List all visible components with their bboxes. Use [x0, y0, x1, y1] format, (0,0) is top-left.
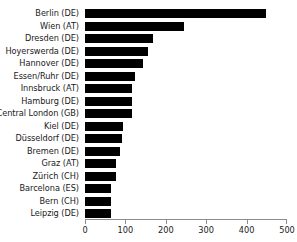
category-label: Berlin (DE) [35, 9, 82, 18]
x-tick-label: 200 [158, 225, 174, 236]
category-axis: Berlin (DE)Wien (AT)Dresden (DE)Hoyerswe… [0, 9, 82, 218]
category-label: Graz (AT) [41, 159, 82, 168]
x-tick-mark [206, 220, 207, 224]
bar-chart: Berlin (DE)Wien (AT)Dresden (DE)Hoyerswe… [0, 0, 297, 242]
category-label: Innsbruck (AT) [21, 84, 82, 93]
bar-row [85, 159, 287, 168]
category-label: Central London (GB) [0, 109, 82, 118]
bar-row [85, 209, 287, 218]
bar-row [85, 59, 287, 68]
x-tick-mark [247, 220, 248, 224]
bar-row [85, 109, 287, 118]
bar-row [85, 134, 287, 143]
category-label: Bern (CH) [40, 197, 82, 206]
plot-area [85, 9, 287, 218]
bar-series [85, 9, 287, 218]
bar-row [85, 122, 287, 131]
category-label: Essen/Ruhr (DE) [14, 72, 82, 81]
bar-row [85, 47, 287, 56]
bar-row [85, 184, 287, 193]
bar [85, 159, 116, 168]
bar-row [85, 84, 287, 93]
category-label: Düsseldorf (DE) [15, 134, 82, 143]
category-label: Hannover (DE) [19, 59, 82, 68]
bar [85, 122, 123, 131]
x-axis-ticks [85, 220, 287, 224]
category-label: Hamburg (DE) [21, 97, 82, 106]
bar [85, 197, 111, 206]
x-tick-label: 300 [198, 225, 214, 236]
bar-row [85, 172, 287, 181]
bar [85, 22, 184, 31]
category-label: Barcelona (ES) [19, 184, 82, 193]
x-tick-label: 500 [279, 225, 295, 236]
category-label: Zürich (CH) [33, 172, 82, 181]
x-tick-label: 100 [118, 225, 134, 236]
bar [85, 184, 111, 193]
x-tick-mark [85, 220, 86, 224]
bar [85, 9, 266, 18]
x-tick-mark [125, 220, 126, 224]
bar-row [85, 22, 287, 31]
category-label: Kiel (DE) [44, 122, 82, 131]
category-label: Hoyerswerda (DE) [5, 47, 82, 56]
bar [85, 47, 148, 56]
bar [85, 97, 132, 106]
bar [85, 34, 153, 43]
bar-row [85, 197, 287, 206]
category-label: Bremen (DE) [27, 147, 82, 156]
bar-row [85, 34, 287, 43]
bar-row [85, 97, 287, 106]
bar [85, 134, 122, 143]
bar [85, 172, 116, 181]
x-tick-mark [166, 220, 167, 224]
bar [85, 72, 135, 81]
x-tick-label: 0 [82, 225, 87, 236]
bar-row [85, 9, 287, 18]
bar [85, 59, 143, 68]
bar-row [85, 147, 287, 156]
x-tick-mark [286, 220, 287, 224]
category-label: Leipzig (DE) [30, 209, 82, 218]
x-tick-label: 400 [239, 225, 255, 236]
bar [85, 209, 111, 218]
bar-row [85, 72, 287, 81]
bar [85, 84, 132, 93]
category-label: Dresden (DE) [25, 34, 82, 43]
bar [85, 147, 120, 156]
bar [85, 109, 132, 118]
category-label: Wien (AT) [40, 22, 82, 31]
x-axis-tick-labels: 0100200300400500 [85, 225, 287, 237]
